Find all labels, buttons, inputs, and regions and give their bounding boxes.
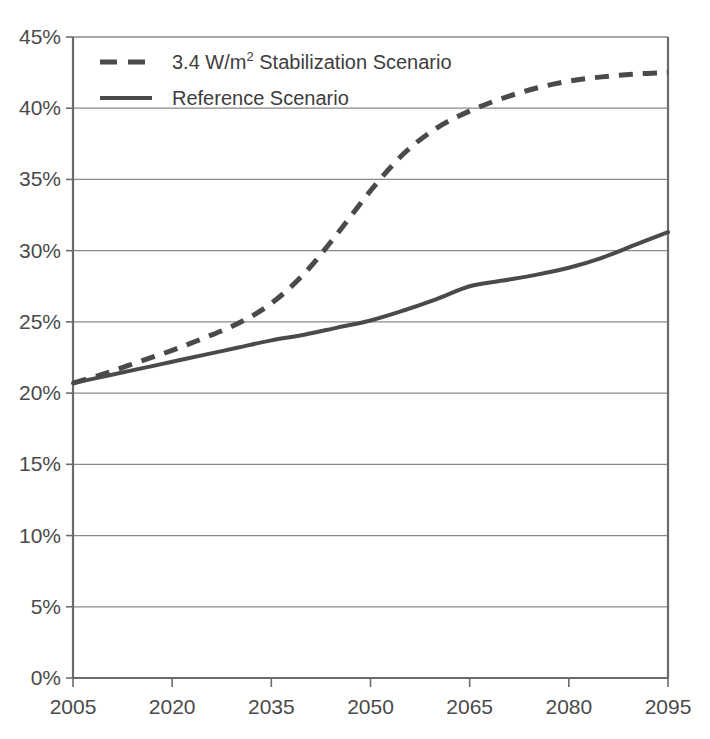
y-tick-label: 0% <box>31 666 61 689</box>
y-tick-label: 45% <box>19 25 61 48</box>
y-tick-label: 10% <box>19 524 61 547</box>
y-tick-label: 5% <box>31 595 61 618</box>
x-tick-label: 2080 <box>545 695 592 718</box>
y-axis-tick-labels: 0%5%10%15%20%25%30%35%40%45% <box>19 25 73 689</box>
y-tick-label: 25% <box>19 310 61 333</box>
x-axis-ticks <box>73 678 668 687</box>
y-tick-label: 15% <box>19 452 61 475</box>
y-tick-label: 20% <box>19 381 61 404</box>
y-tick-label: 30% <box>19 239 61 262</box>
y-tick-label: 35% <box>19 167 61 190</box>
plot-background <box>73 37 668 678</box>
x-tick-label: 2005 <box>50 695 97 718</box>
legend-label-1: 3.4 W/m2 Stabilization Scenario <box>172 49 452 73</box>
chart-container: 0%5%10%15%20%25%30%35%40%45% 20052020203… <box>0 0 710 739</box>
line-chart: 0%5%10%15%20%25%30%35%40%45% 20052020203… <box>0 0 710 739</box>
x-tick-label: 2095 <box>645 695 692 718</box>
x-tick-label: 2020 <box>149 695 196 718</box>
legend-label-2: Reference Scenario <box>172 87 349 109</box>
x-tick-label: 2035 <box>248 695 295 718</box>
x-tick-label: 2065 <box>446 695 493 718</box>
x-tick-label: 2050 <box>347 695 394 718</box>
x-axis-tick-labels: 2005202020352050206520802095 <box>50 695 692 718</box>
y-tick-label: 40% <box>19 96 61 119</box>
